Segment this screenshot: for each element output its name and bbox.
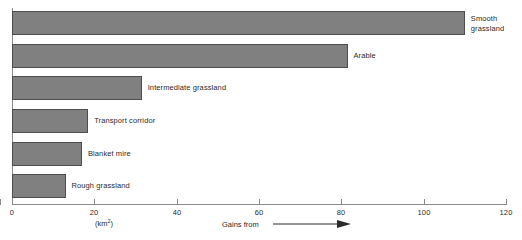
right-arrow-icon bbox=[273, 219, 351, 229]
bar-blanket-mire bbox=[12, 142, 82, 166]
x-axis-tick bbox=[506, 199, 507, 205]
x-axis-tick-label: 40 bbox=[173, 208, 182, 217]
x-axis-tick-label: 80 bbox=[337, 208, 346, 217]
x-axis-tick-label: 100 bbox=[417, 208, 430, 217]
bar-label-line1: Smooth bbox=[471, 14, 497, 23]
x-axis-tick-label: 120 bbox=[499, 208, 512, 217]
bar-rough-grassland bbox=[12, 174, 66, 198]
bar-label-blanket-mire: Blanket mire bbox=[88, 149, 131, 159]
x-axis-tick bbox=[94, 199, 95, 205]
unit-suffix: ) bbox=[111, 219, 114, 228]
plot-area: 0 20 40 60 80 100 120 Smoothgrassland Ar… bbox=[0, 0, 522, 240]
bar-label-rough-grassland: Rough grassland bbox=[72, 181, 130, 191]
bar-arable bbox=[12, 44, 348, 68]
x-axis-tick bbox=[12, 199, 13, 205]
bar-label-transport-corridor: Transport corridor bbox=[94, 116, 155, 126]
unit-prefix: (km bbox=[95, 219, 108, 228]
x-axis-tick bbox=[341, 199, 342, 205]
x-axis-tick-label: 20 bbox=[90, 208, 99, 217]
x-axis-tick bbox=[177, 199, 178, 205]
bar-label-smooth-grassland: Smoothgrassland bbox=[471, 14, 504, 33]
bar-smooth-grassland bbox=[12, 11, 465, 35]
bar-label-arable: Arable bbox=[354, 51, 376, 61]
bar-intermediate-grassland bbox=[12, 76, 142, 100]
bar-chart: 0 20 40 60 80 100 120 Smoothgrassland Ar… bbox=[0, 0, 522, 240]
x-axis-unit-label: (km2) bbox=[95, 219, 113, 228]
x-axis-tick bbox=[259, 199, 260, 205]
x-axis-tick bbox=[424, 199, 425, 205]
bar-label-line2: grassland bbox=[471, 23, 504, 32]
x-axis-tick-label: 0 bbox=[10, 208, 14, 217]
x-axis-tick bbox=[0, 199, 1, 205]
gains-from-annotation: Gains from bbox=[222, 219, 351, 229]
bar-label-intermediate-grassland: Intermediate grassland bbox=[148, 83, 227, 93]
x-axis-tick-label: 60 bbox=[255, 208, 264, 217]
gains-from-label: Gains from bbox=[222, 220, 259, 229]
bar-transport-corridor bbox=[12, 109, 88, 133]
